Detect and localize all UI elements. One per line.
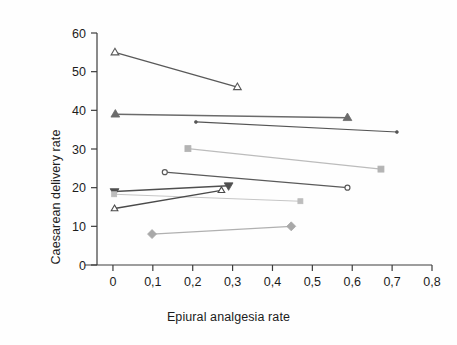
data-point-marker [111,110,120,118]
y-axis-label-container: Caesarean delivery rate [18,40,38,260]
x-axis-tick-label: 0,2 [184,275,201,289]
data-point-marker [287,222,296,231]
data-point-marker [185,146,191,152]
series-line [115,186,229,192]
series-line [152,226,291,234]
series-small-dot-dark [194,120,398,133]
x-axis-tick-label: 0,7 [383,275,400,289]
data-point-marker [111,48,119,55]
data-point-marker [194,120,197,123]
data-point-marker [298,199,303,204]
y-axis-tick-label: 50 [72,65,86,79]
y-axis-tick-label: 40 [72,104,86,118]
y-axis-tick-label: 20 [72,181,86,195]
data-point-marker [345,185,350,190]
x-axis-tick-label: 0,1 [144,275,161,289]
y-axis-tick-label: 30 [72,143,86,157]
data-point-marker [112,192,117,197]
data-point-marker [218,187,225,193]
series-line [115,52,237,87]
series-diamond-gray [148,222,296,239]
series-open-triangle-up-dark [111,48,241,89]
series-line [165,172,348,187]
series-line [115,114,347,117]
x-axis-label: Epiural analgesia rate [0,310,457,324]
series-line [114,194,300,201]
series-filled-triangle-up-dark [111,110,352,121]
axes-layer [85,33,432,271]
series-line [188,149,381,170]
data-point-marker [343,113,352,121]
data-point-marker [395,130,398,133]
data-point-marker [162,170,167,175]
x-axis-tick-label: 0,4 [264,275,281,289]
data-point-marker [378,166,384,172]
x-axis-tick-label: 0,6 [344,275,361,289]
scatter-plot-canvas: 010203040506000,10,20,30,40,50,60,70,8 [0,0,457,345]
y-axis-tick-label: 10 [72,220,86,234]
data-series-layer [110,48,398,238]
x-axis-tick-label: 0,8 [423,275,440,289]
series-square-light-upper [185,146,384,172]
x-axis-tick-label: 0 [109,275,116,289]
series-line [115,190,222,208]
y-axis-label: Caesarean delivery rate [49,97,63,297]
series-square-light-lower [112,192,303,204]
chart-figure: 010203040506000,10,20,30,40,50,60,70,8 C… [0,0,457,345]
x-axis-tick-label: 0,5 [304,275,321,289]
y-axis-tick-label: 0 [79,259,86,273]
x-axis-tick-label: 0,3 [224,275,241,289]
data-point-marker [148,230,157,239]
tick-label-layer: 010203040506000,10,20,30,40,50,60,70,8 [72,27,441,290]
series-filled-triangle-down-dark [110,183,233,196]
series-line [196,122,397,132]
y-axis-tick-label: 60 [72,27,86,41]
